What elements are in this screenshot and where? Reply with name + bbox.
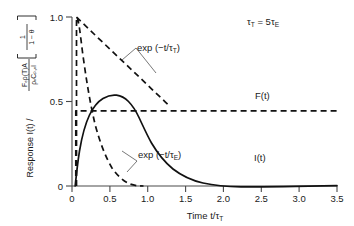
exp-tau-t-label-close: ) [177,42,180,53]
f-of-t-label: F(t) [255,90,270,101]
x-ticklabel-2_0: 2.0 [217,193,230,204]
y-axis-bracket-denominator: 1 − θ [28,29,35,45]
f-of-t-curve [76,111,337,186]
condition-equals: = 5τ [255,16,275,27]
x-axis-title: Time t/τT [187,210,223,222]
x-ticks: 0 0.5 1.0 1.5 2.0 2.5 3.0 3.5 [69,186,343,204]
x-ticklabel-1_5: 1.5 [179,193,192,204]
y-axis-bracket-right [18,16,37,20]
series-i-of-t [75,95,337,187]
y-ticklabel-1_0: 1.0 [50,12,63,23]
x-ticklabel-0_5: 0.5 [103,193,116,204]
y-axis-title: Response I(t) / Fₑρ(T)A ρᵥCₚ,ᵥl 1 1 − θ [18,16,39,178]
y-axis-fraction-denominator: ρᵥCₚ,ᵥl [30,65,38,85]
y-axis-fraction-numerator: Fₑρ(T)A [21,63,29,87]
i-of-t-label: I(t) [254,152,266,163]
exp-tau-t-label: exp (−t/τT) [137,42,180,54]
x-axis-title-sub: T [219,215,223,222]
exp-tau-t-label-main: exp (−t/τ [137,42,173,53]
exp-tau-e-leader-left [127,161,137,172]
annotation-condition: τT = 5τE [247,16,280,28]
y-axis-bracket-numerator: 1 [19,35,26,39]
chart-svg: 0 0.5 1.0 0 0.5 1.0 1.5 2.0 2.5 3.0 3.5 [0,0,354,226]
exp-tau-e-label-close: ) [178,149,181,160]
x-ticklabel-3_0: 3.0 [292,193,305,204]
y-axis-title-prefix: Response I(t) / [25,118,35,178]
x-ticklabel-0: 0 [69,193,74,204]
series-f-of-t [76,111,337,186]
y-ticklabel-0: 0 [58,181,63,192]
y-ticks: 0 0.5 1.0 [50,12,72,192]
exp-tau-e-curve [77,17,144,186]
series-exp-tau-t [77,17,171,106]
exp-tau-e-leader-up [122,151,137,161]
x-axis-title-text: Time t/τT [187,210,223,222]
y-axis-fraction: Fₑρ(T)A ρᵥCₚ,ᵥl [21,59,39,91]
y-axis-bracket-group: 1 1 − θ [18,16,37,58]
exp-tau-e-label: exp (−t/τE) [138,149,181,161]
condition-text: τT = 5τE [247,16,280,28]
x-ticklabel-3_5: 3.5 [330,193,343,204]
x-axis-title-main: Time t/τ [187,210,220,221]
chart-figure: 0 0.5 1.0 0 0.5 1.0 1.5 2.0 2.5 3.0 3.5 [0,0,354,226]
i-of-t-curve [75,95,337,187]
y-ticklabel-0_5: 0.5 [50,96,63,107]
x-ticklabel-1_0: 1.0 [141,193,154,204]
y-axis-bracket-left [18,54,37,58]
x-ticklabel-2_5: 2.5 [255,193,268,204]
exp-tau-e-label-main: exp (−t/τ [138,149,174,160]
axes [72,17,337,186]
exp-tau-t-curve [77,17,171,106]
condition-sub-e: E [275,21,280,28]
series-exp-tau-e [77,17,144,186]
exp-tau-t-leader-top [122,48,136,60]
